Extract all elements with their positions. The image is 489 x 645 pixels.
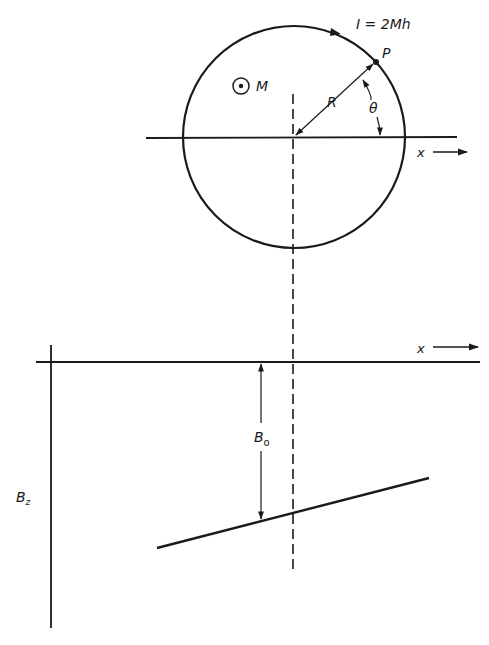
b0-offset-label-subscript: o: [264, 437, 270, 448]
b0-offset-label-main: B: [254, 429, 264, 445]
moment-dot: [239, 84, 243, 88]
angle-theta-arc: [363, 80, 371, 100]
bz-axis-label: Bz: [16, 489, 31, 507]
angle-theta-arc-lower: [377, 117, 380, 135]
bz-axis-label-subscript: z: [25, 497, 31, 507]
b0-offset-label: Bo: [254, 429, 270, 448]
bz-axis-label-main: B: [16, 489, 26, 505]
magnetic-loop-diagram: x P R θ M I = 2Mh x Bz Bo: [0, 0, 489, 645]
current-label: I = 2Mh: [356, 16, 411, 32]
top-x-axis: [146, 137, 457, 138]
radius-label: R: [327, 94, 337, 110]
moment-label: M: [256, 78, 268, 94]
bottom-x-axis-label: x: [416, 341, 425, 356]
point-p: [373, 59, 379, 65]
angle-theta-label: θ: [369, 100, 378, 116]
point-p-label: P: [382, 45, 391, 61]
top-x-axis-label: x: [416, 145, 425, 160]
